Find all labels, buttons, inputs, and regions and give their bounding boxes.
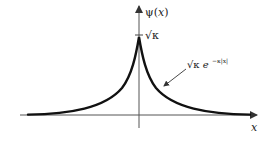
- x-axis-label: x: [251, 121, 258, 134]
- curve-label: √κ e −κ|x|: [187, 57, 228, 70]
- curve-label-arrow: [164, 69, 186, 86]
- peak-label: √κ: [145, 29, 159, 42]
- wavefunction-diagram: ψ(x) √κ √κ e −κ|x| x: [0, 0, 276, 142]
- y-axis-label: ψ(x): [145, 6, 168, 19]
